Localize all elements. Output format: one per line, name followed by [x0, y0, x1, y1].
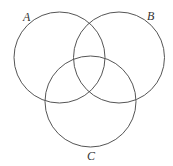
venn-diagram: A B C	[0, 0, 173, 166]
label-b: B	[147, 9, 155, 23]
circle-c	[45, 56, 136, 147]
circle-a	[14, 12, 105, 103]
label-a: A	[22, 10, 31, 24]
label-c: C	[87, 149, 96, 163]
circle-b	[74, 12, 165, 103]
